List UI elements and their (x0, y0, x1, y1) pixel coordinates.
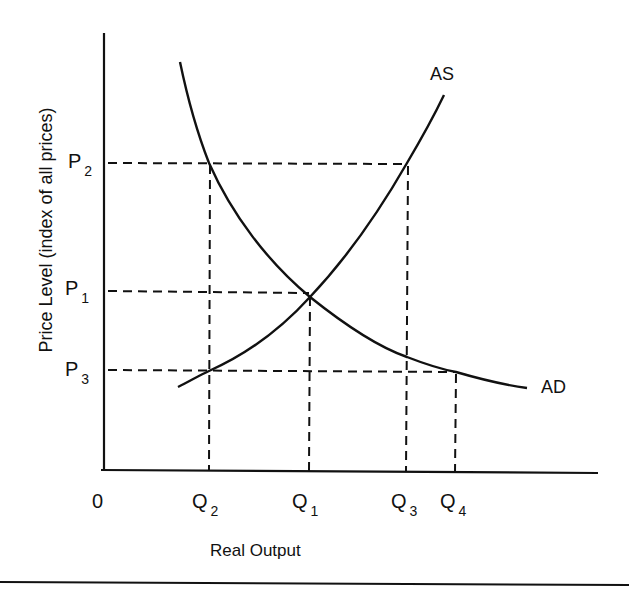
y-axis-title: Price Level (index of all prices) (36, 107, 57, 352)
ad-curve (180, 62, 527, 388)
quantity-subscript: 4 (459, 503, 467, 519)
q1-guide (309, 297, 310, 472)
price-subscript: 1 (81, 290, 89, 306)
quantity-subscript: 3 (410, 503, 418, 519)
quantity-subscript: 1 (311, 503, 319, 519)
quantity-label-q3: Q3 (391, 490, 417, 513)
as-curve (178, 95, 444, 387)
ad-curve-label: AD (541, 377, 566, 398)
p1-guide (108, 291, 309, 293)
p2-guide (108, 163, 407, 164)
as-curve-label: AS (430, 64, 454, 85)
x-axis (101, 470, 598, 473)
price-subscript: 2 (84, 163, 92, 179)
quantity-symbol: Q (440, 490, 456, 512)
quantity-label-q1: Q1 (292, 490, 318, 513)
quantity-symbol: Q (192, 490, 208, 512)
bottom-rule (0, 582, 629, 585)
price-label-p1: P1 (65, 277, 89, 300)
price-symbol: P (65, 358, 78, 380)
origin-label: 0 (92, 490, 103, 513)
price-subscript: 3 (81, 371, 89, 387)
q2-guide (209, 165, 210, 470)
quantity-label-q2: Q2 (192, 490, 218, 513)
q3-guide (406, 166, 408, 472)
price-symbol: P (68, 150, 81, 172)
quantity-subscript: 2 (211, 503, 219, 519)
quantity-symbol: Q (292, 490, 308, 512)
x-axis-title: Real Output (210, 541, 301, 561)
quantity-symbol: Q (391, 490, 407, 512)
price-symbol: P (65, 277, 78, 299)
q4-guide (455, 374, 456, 473)
price-label-p3: P3 (65, 358, 89, 381)
quantity-label-q4: Q4 (440, 490, 466, 513)
price-label-p2: P2 (68, 150, 92, 173)
p3-guide (108, 370, 456, 372)
